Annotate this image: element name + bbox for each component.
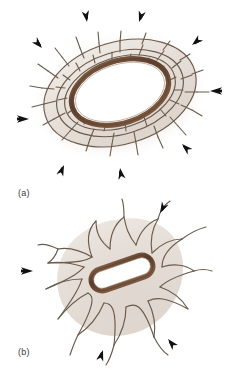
panel-b-illustration (0, 195, 240, 375)
panel-b (0, 195, 240, 375)
figure-container: (a) (0, 0, 240, 375)
panel-label-b: (b) (18, 347, 30, 357)
panel-a (0, 0, 240, 200)
panel-a-illustration (0, 0, 240, 200)
